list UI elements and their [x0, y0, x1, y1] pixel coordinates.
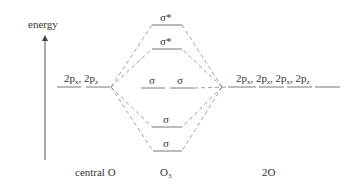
column-label-central-o: central O	[75, 166, 116, 178]
corr-left-b2	[111, 87, 153, 151]
mo-label-antibonding-top: σ*	[160, 11, 171, 23]
mo-label-bonding-2: σ	[163, 137, 169, 149]
mo-label-bonding-1: σ	[163, 113, 169, 125]
mo-label-nonbonding-2: σ	[177, 74, 183, 86]
energy-axis-label: energy	[28, 18, 58, 30]
right-orbital-label: 2px, 2pz, 2px, 2pz	[236, 72, 310, 86]
corr-nonbonding	[194, 87, 228, 88]
column-label-o3: O3	[160, 166, 172, 180]
corr-right-b2	[182, 87, 222, 151]
mo-label-antibonding-2: σ*	[160, 35, 171, 47]
corr-right-b1	[182, 87, 222, 127]
mo-label-nonbonding-1: σ	[149, 74, 155, 86]
corr-right-2	[182, 49, 222, 87]
corr-left-b1	[111, 87, 152, 127]
corr-left-2	[111, 49, 152, 87]
corr-right-top	[182, 25, 222, 87]
corr-left-top	[111, 25, 152, 87]
mo-diagram: energy 2px, 2pz 2px, 2pz, 2px, 2pz σ* σ*…	[0, 0, 352, 189]
column-label-2o: 2O	[262, 166, 276, 178]
left-orbital-label: 2px, 2pz	[64, 72, 98, 86]
